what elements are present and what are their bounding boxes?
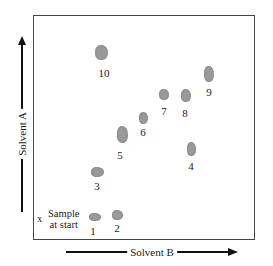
solvent-b-arrowhead-icon [228,248,238,256]
spot-label-9: 9 [206,87,212,98]
solvent-a-label: Solvent A [16,109,28,159]
spot-7 [159,89,169,100]
spot-label-7: 7 [161,106,167,117]
spot-label-4: 4 [188,161,194,172]
spot-3 [91,167,104,177]
solvent-b-label: Solvent B [127,246,177,258]
start-label: Sample at start [48,208,80,230]
spot-label-10: 10 [99,68,110,79]
spot-4 [187,142,196,156]
spot-5 [117,126,128,143]
start-x-mark: x [37,213,42,224]
spot-2 [112,210,123,220]
spot-label-6: 6 [140,127,146,138]
start-label-line1: Sample [48,208,80,219]
spot-label-1: 1 [90,226,96,237]
solvent-a-arrowhead-icon [18,36,26,45]
start-label-line2: at start [48,219,80,230]
spot-label-3: 3 [94,181,100,192]
spot-9 [204,66,214,82]
spot-10 [95,45,108,60]
spot-6 [139,112,148,124]
spot-8 [181,89,191,102]
spot-label-5: 5 [117,150,123,161]
spot-label-8: 8 [182,108,188,119]
spot-1 [89,213,101,221]
spot-label-2: 2 [114,223,120,234]
